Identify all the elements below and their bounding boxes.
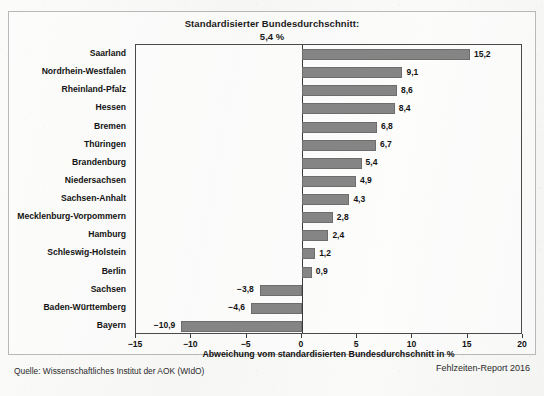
bar xyxy=(302,140,376,151)
bar-value-label: 2,4 xyxy=(332,230,344,241)
bar xyxy=(251,303,302,314)
bar-row: −4,6 xyxy=(136,300,521,318)
bar-row: 15,2 xyxy=(136,46,521,64)
x-tick xyxy=(411,334,412,338)
bar-row: 6,7 xyxy=(136,137,521,155)
category-label: Rheinland-Pfalz xyxy=(62,83,126,95)
bar-value-label: 5,4 xyxy=(366,157,378,168)
bar xyxy=(302,49,470,60)
x-tick-label: 15 xyxy=(462,339,472,349)
bar xyxy=(181,321,302,332)
plot-area: 15,29,18,68,46,86,75,44,94,32,82,41,20,9… xyxy=(135,44,522,334)
x-tick-label: −5 xyxy=(241,339,251,349)
footer-source: Quelle: Wissenschaftliches Institut der … xyxy=(14,366,204,376)
bar-row: 5,4 xyxy=(136,155,521,173)
bar xyxy=(302,248,315,259)
x-axis-title: Abweichung vom standardisierten Bundesdu… xyxy=(135,349,522,359)
category-label: Thüringen xyxy=(84,138,126,150)
bar-row: 2,8 xyxy=(136,209,521,227)
category-label: Hessen xyxy=(95,101,126,113)
bar-row: 6,8 xyxy=(136,119,521,137)
bar-row: 0,9 xyxy=(136,264,521,282)
bar-row: 2,4 xyxy=(136,227,521,245)
category-label: Schleswig-Holstein xyxy=(47,246,126,258)
bar xyxy=(302,194,350,205)
bar-value-label: 8,4 xyxy=(399,103,411,114)
bar xyxy=(302,67,403,78)
chart-title: Standardisierter Bundesdurchschnitt: xyxy=(8,17,536,30)
x-tick-label: 10 xyxy=(407,339,417,349)
category-label: Saarland xyxy=(90,47,126,59)
category-label: Hamburg xyxy=(88,228,126,240)
chart-title-block: Standardisierter Bundesdurchschnitt: 5,4… xyxy=(8,17,536,43)
category-label: Bayern xyxy=(97,319,126,331)
bar-value-label: −3,8 xyxy=(237,284,254,295)
bar-value-label: 8,6 xyxy=(401,85,413,96)
bar xyxy=(302,103,395,114)
x-tick-label: 20 xyxy=(517,339,527,349)
bar-row: 4,3 xyxy=(136,191,521,209)
category-label: Sachsen-Anhalt xyxy=(61,192,126,204)
x-tick xyxy=(467,334,468,338)
x-tick xyxy=(190,334,191,338)
bar xyxy=(260,285,302,296)
x-tick xyxy=(246,334,247,338)
bar-row: 4,9 xyxy=(136,173,521,191)
bar-row: 8,4 xyxy=(136,100,521,118)
bar-value-label: 1,2 xyxy=(319,248,331,259)
bar xyxy=(302,212,333,223)
bar-row: 8,6 xyxy=(136,82,521,100)
category-label: Brandenburg xyxy=(72,156,126,168)
bar xyxy=(302,85,397,96)
bar xyxy=(302,122,377,133)
bar-value-label: 0,9 xyxy=(316,266,328,277)
x-tick-label: −10 xyxy=(183,339,198,349)
bar xyxy=(302,158,362,169)
bar-value-label: −10,9 xyxy=(154,320,176,331)
category-label: Nordrhein-Westfalen xyxy=(42,65,126,77)
bar-row: −3,8 xyxy=(136,282,521,300)
footer-report: Fehlzeiten-Report 2016 xyxy=(436,363,530,373)
category-label: Sachsen xyxy=(91,283,126,295)
bar-row: 1,2 xyxy=(136,245,521,263)
bar-value-label: 6,7 xyxy=(380,139,392,150)
x-tick-label: 5 xyxy=(354,339,359,349)
category-label: Bremen xyxy=(94,120,126,132)
bar-value-label: 4,9 xyxy=(360,175,372,186)
bar-value-label: −4,6 xyxy=(228,302,245,313)
bar-value-label: 9,1 xyxy=(406,67,418,78)
category-label: Berlin xyxy=(102,265,126,277)
bar-row: 9,1 xyxy=(136,64,521,82)
bar xyxy=(302,176,356,187)
bar-value-label: 15,2 xyxy=(474,49,491,60)
bar-value-label: 4,3 xyxy=(353,194,365,205)
category-axis-labels: SaarlandNordrhein-WestfalenRheinland-Pfa… xyxy=(0,44,131,334)
category-label: Mecklenburg-Vorpommern xyxy=(17,210,126,222)
bar xyxy=(302,267,312,278)
bar-value-label: 2,8 xyxy=(337,212,349,223)
x-tick xyxy=(301,334,302,338)
category-label: Niedersachsen xyxy=(65,174,126,186)
x-tick xyxy=(356,334,357,338)
category-label: Baden-Württemberg xyxy=(43,301,126,313)
x-tick-label: −15 xyxy=(128,339,143,349)
x-tick xyxy=(135,334,136,338)
bar xyxy=(302,230,329,241)
x-tick-label: 0 xyxy=(298,339,303,349)
chart-subtitle: 5,4 % xyxy=(8,30,536,43)
x-tick xyxy=(522,334,523,338)
bar-value-label: 6,8 xyxy=(381,121,393,132)
